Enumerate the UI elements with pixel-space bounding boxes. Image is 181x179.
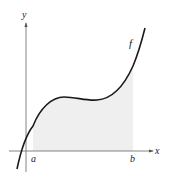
y-axis-label: y bbox=[21, 9, 27, 20]
shaded-area-region bbox=[33, 66, 133, 151]
lower-bound-label: a bbox=[31, 153, 36, 164]
x-axis-label: x bbox=[154, 145, 160, 156]
function-label: f bbox=[129, 37, 134, 49]
upper-bound-label: b bbox=[130, 153, 135, 164]
area-under-curve-diagram: y x f a b bbox=[0, 0, 181, 179]
